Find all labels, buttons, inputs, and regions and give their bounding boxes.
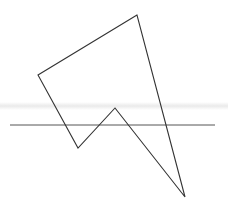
irregular-polygon bbox=[38, 15, 185, 197]
diagram-canvas bbox=[0, 0, 228, 201]
